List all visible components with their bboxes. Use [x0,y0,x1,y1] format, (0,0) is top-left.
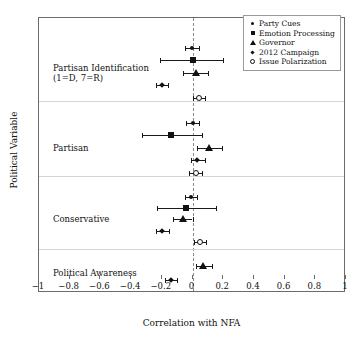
open-circle-marker [193,170,199,176]
confidence-interval-cap [177,278,178,283]
diamond-marker [159,228,165,234]
open-circle-marker [196,95,202,101]
confidence-interval-cap [216,206,217,211]
x-axis-tick-label: 0.4 [246,281,260,291]
confidence-interval-cap [212,264,213,269]
confidence-interval-cap [222,146,223,151]
x-axis-tick-label: 0.8 [308,281,322,291]
x-axis-tick-label: −0.6 [89,281,110,291]
diamond-marker [159,82,165,88]
x-axis-tick-label: −0.4 [120,281,141,291]
confidence-interval-cap [156,229,157,234]
confidence-interval-cap [173,217,174,222]
triangle-marker [179,215,187,222]
x-axis-tick-label: −0.8 [58,281,79,291]
x-axis-tick-label: 1 [342,281,347,291]
square-marker [183,205,189,211]
legend-label: Governor [257,38,295,47]
confidence-interval-cap [206,240,207,245]
confidence-interval-cap [183,71,184,76]
confidence-interval-cap [194,240,195,245]
triangle-marker [248,40,257,45]
confidence-interval-cap [185,46,186,51]
confidence-interval-cap [193,96,194,101]
x-axis-tick [69,275,70,279]
legend-item[interactable]: Governor [248,38,335,48]
x-axis-tick-label: −1 [32,281,45,291]
dot-marker [189,195,193,199]
confidence-interval-cap [199,121,200,126]
x-axis-tick [345,275,346,279]
x-axis-tick [253,275,254,279]
confidence-interval-cap [189,171,190,176]
square-marker [248,31,257,35]
confidence-interval-cap [185,195,186,200]
y-axis-title: Political Variable [9,90,19,210]
group-label: Partisan Identification (1=D, 7=R) [53,63,149,84]
confidence-interval-cap [142,133,143,138]
confidence-interval-cap [208,71,209,76]
legend-label: Issue Polarization [257,57,327,66]
group-label: Political Awareness [53,268,137,279]
x-axis-tick [130,275,131,279]
confidence-interval-cap [196,264,197,269]
legend-label: Emotion Processing [257,29,335,38]
diamond-marker [248,51,257,54]
legend-item[interactable]: 2012 Campaign [248,48,335,58]
confidence-interval-cap [202,171,203,176]
x-axis-tick-label: 0.6 [277,281,291,291]
confidence-interval-cap [197,146,198,151]
confidence-interval-cap [186,121,187,126]
confidence-interval-cap [205,96,206,101]
x-axis-tick [99,275,100,279]
group-label: Conservative [53,214,109,225]
diamond-marker [194,157,200,163]
legend-label: 2012 Campaign [257,48,319,57]
dot-marker [191,121,195,125]
confidence-interval-cap [169,229,170,234]
confidence-interval-cap [168,83,169,88]
x-axis-tick-label: −0.2 [150,281,171,291]
dot-marker [190,46,194,50]
triangle-marker [205,144,213,151]
x-axis-title: Correlation with NFA [38,318,345,328]
confidence-interval-cap [199,46,200,51]
legend-item[interactable]: Emotion Processing [248,29,335,39]
group-separator [39,101,344,102]
x-axis-tick [161,275,162,279]
confidence-interval-cap [202,133,203,138]
group-label: Partisan [53,143,89,154]
group-separator [39,249,344,250]
confidence-interval-cap [160,58,161,63]
confidence-interval-cap [193,217,194,222]
confidence-interval-cap [197,195,198,200]
square-marker [190,57,196,63]
confidence-interval-cap [205,158,206,163]
legend-label: Party Cues [257,19,300,28]
confidence-interval-cap [191,158,192,163]
legend: Party CuesEmotion ProcessingGovernor2012… [243,15,341,71]
x-axis-tick [192,275,193,279]
x-axis-tick [314,275,315,279]
confidence-interval-cap [156,83,157,88]
x-axis-tick-label: 0.2 [215,281,229,291]
x-axis-tick-label: 0 [189,281,194,291]
confidence-interval-cap [157,206,158,211]
open-circle-marker [248,59,257,64]
group-separator [39,176,344,177]
triangle-marker [199,262,207,269]
x-axis-tick [284,275,285,279]
legend-item[interactable]: Party Cues [248,19,335,29]
triangle-marker [192,69,200,76]
forest-plot-figure: Political Variable Partisan Identificati… [0,0,352,345]
square-marker [168,132,174,138]
dot-marker [248,22,257,25]
confidence-interval-cap [223,58,224,63]
x-axis-tick [222,275,223,279]
legend-item[interactable]: Issue Polarization [248,57,335,67]
x-axis-tick [38,275,39,279]
open-circle-marker [197,239,203,245]
